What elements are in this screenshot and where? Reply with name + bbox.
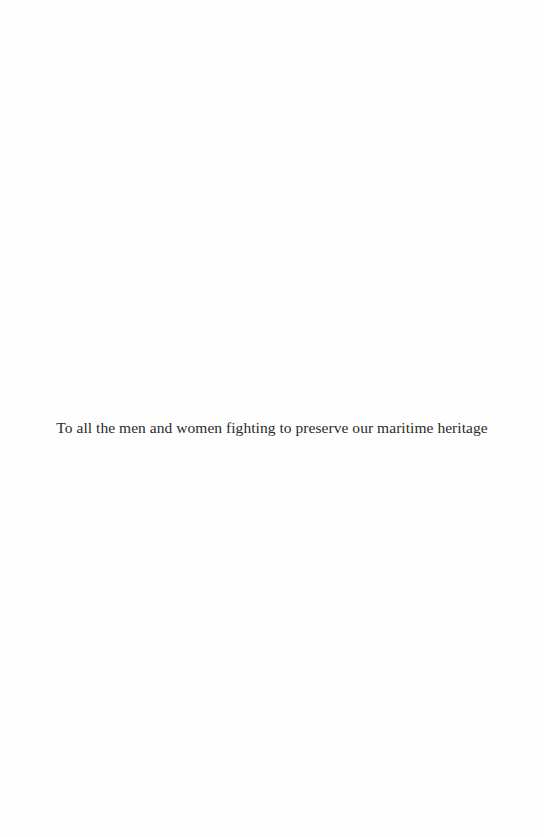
book-page: To all the men and women fighting to pre…: [0, 0, 544, 837]
dedication-text: To all the men and women fighting to pre…: [0, 419, 544, 437]
